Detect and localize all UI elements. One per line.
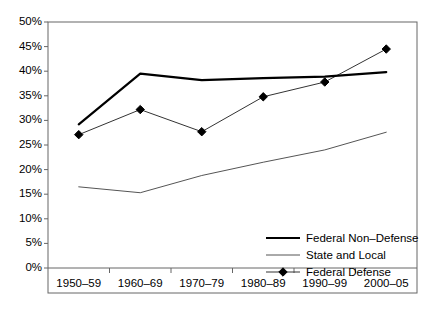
x-tick-label: 1970–79: [179, 278, 224, 290]
legend-label-2: Federal Defense: [306, 267, 391, 279]
x-axis-tick-labels: 1950–591960–691970–791980–891990–992000–…: [0, 0, 433, 328]
x-tick-label: 1960–69: [118, 278, 163, 290]
legend-label-0: Federal Non–Defense: [306, 233, 419, 245]
chart-container: 0%5%10%15%20%25%30%35%40%45%50% 1950–591…: [0, 0, 433, 328]
x-tick-label: 2000–05: [364, 278, 409, 290]
legend-label-1: State and Local: [306, 250, 386, 262]
x-tick-label: 1980–89: [241, 278, 286, 290]
x-tick-label: 1950–59: [56, 278, 101, 290]
x-tick-label: 1990–99: [302, 278, 347, 290]
